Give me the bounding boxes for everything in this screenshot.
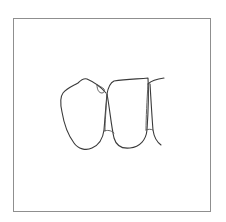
right-partial-tooth-side [150,84,161,145]
middle-tooth [107,78,148,148]
right-partial-tooth [148,78,164,84]
teeth-drawing [0,0,226,222]
left-tooth [61,79,107,150]
small-cusp-detail [97,85,104,93]
contact-line-right [146,129,153,130]
